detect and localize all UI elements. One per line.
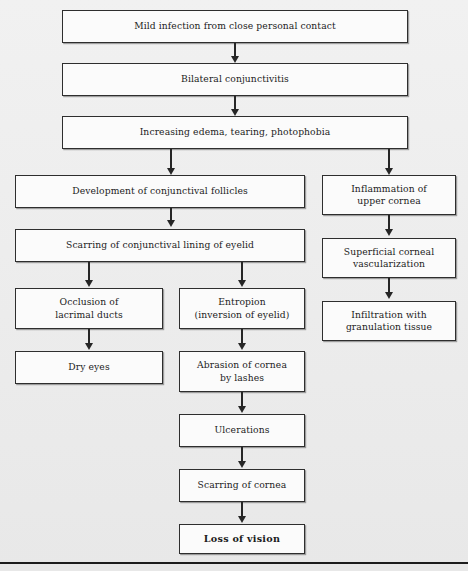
flow-node-infiltration-granulation-tissue: Infiltration with granulation tissue [322, 301, 456, 341]
flow-node-conjunctival-follicles: Development of conjunctival follicles [15, 175, 305, 208]
flow-node-abrasion-cornea-by-lashes: Abrasion of cornea by lashes [179, 351, 305, 392]
edge-n12-n13-arrow [238, 406, 246, 413]
flow-node-scarring-conjunctival-lining: Scarring of conjunctival lining of eyeli… [15, 229, 305, 262]
edge-n1-n2-arrow [231, 56, 239, 63]
edge-n13-n14-arrow [238, 461, 246, 468]
flow-node-label: Occlusion of lacrimal ducts [55, 296, 123, 320]
flow-node-label: Dry eyes [68, 361, 109, 373]
flow-node-label: Scarring of cornea [198, 479, 287, 491]
edge-n7-n10-arrow [385, 292, 393, 299]
edge-n8-n11-arrow [85, 343, 93, 350]
flow-node-label: Superficial corneal vascularization [344, 246, 434, 270]
flow-node-ulcerations: Ulcerations [179, 414, 305, 447]
footer-rule [0, 562, 468, 564]
flow-node-dry-eyes: Dry eyes [15, 351, 163, 384]
edge-n6-n9-arrow [238, 280, 246, 287]
edge-n6-n8-arrow [85, 280, 93, 287]
flow-node-label: Entropion (inversion of eyelid) [195, 296, 290, 320]
flow-node-label: Inflammation of upper cornea [351, 183, 427, 207]
flow-node-bilateral-conjunctivitis: Bilateral conjunctivitis [62, 63, 408, 96]
flow-node-label: Scarring of conjunctival lining of eyeli… [66, 239, 254, 251]
flowchart-figure: Mild infection from close personal conta… [0, 0, 468, 571]
edge-n4-n6-arrow [167, 220, 175, 227]
edge-n5-n7-arrow [385, 229, 393, 236]
edge-n9-n12-arrow [238, 343, 246, 350]
flow-node-label: Abrasion of cornea by lashes [197, 359, 287, 383]
flow-node-increasing-edema: Increasing edema, tearing, photophobia [62, 116, 408, 149]
flow-node-occlusion-lacrimal-ducts: Occlusion of lacrimal ducts [15, 288, 163, 329]
edge-n3-n5-arrow [385, 168, 393, 175]
flow-node-superficial-corneal-vascularization: Superficial corneal vascularization [322, 238, 456, 278]
edge-n2-n3-arrow [231, 109, 239, 116]
flow-node-mild-infection: Mild infection from close personal conta… [62, 10, 408, 43]
flow-node-label: Ulcerations [214, 424, 269, 436]
flow-node-scarring-of-cornea: Scarring of cornea [179, 469, 305, 502]
flow-node-loss-of-vision: Loss of vision [179, 524, 305, 554]
flow-node-entropion: Entropion (inversion of eyelid) [179, 288, 305, 329]
flow-node-label: Increasing edema, tearing, photophobia [140, 126, 331, 138]
edge-n3-n4-arrow [167, 168, 175, 175]
edge-n14-n15-arrow [238, 516, 246, 523]
flow-node-inflammation-upper-cornea: Inflammation of upper cornea [322, 175, 456, 215]
flow-node-label: Loss of vision [204, 533, 280, 546]
flow-node-label: Mild infection from close personal conta… [134, 20, 336, 32]
flow-node-label: Bilateral conjunctivitis [181, 73, 289, 85]
flow-node-label: Infiltration with granulation tissue [346, 309, 432, 333]
flow-node-label: Development of conjunctival follicles [72, 185, 248, 197]
